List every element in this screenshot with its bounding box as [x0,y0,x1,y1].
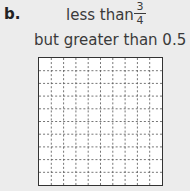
condition-text-line2: but greater than 0.5 [34,31,186,49]
grid-lines [39,58,162,185]
fraction-denominator: 4 [134,15,146,26]
condition-text-line1: less than [66,6,134,24]
fraction-three-quarters: 3 4 [134,1,146,26]
problem-label: b. [4,5,20,23]
hundred-grid[interactable] [38,57,163,186]
fraction-numerator: 3 [134,1,146,12]
